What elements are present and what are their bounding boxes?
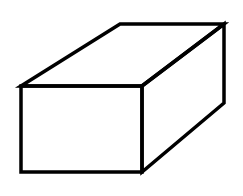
front-face	[21, 86, 142, 172]
box-diagram	[0, 0, 243, 196]
side-face	[142, 24, 224, 172]
top-face	[21, 24, 224, 86]
